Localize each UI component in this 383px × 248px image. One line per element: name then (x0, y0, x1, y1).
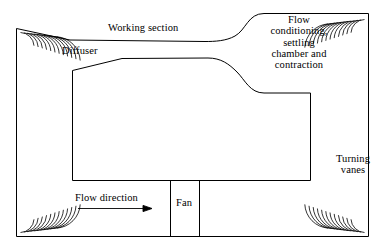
label-working-section: Working section (108, 22, 178, 33)
wind-tunnel-diagram: Working section Diffuser Flow conditioni… (0, 0, 383, 248)
label-turning-vanes: Turning vanes (327, 153, 379, 176)
label-diffuser: Diffuser (62, 45, 98, 56)
flow-direction-arrow (78, 205, 152, 211)
label-fan: Fan (176, 197, 192, 208)
fan-duct-segment (171, 181, 200, 237)
turning-vanes-bottom-right (305, 204, 365, 232)
label-flow-conditioning: Flow conditioning, settling chamber and … (262, 14, 336, 71)
inner-tunnel-wall (73, 58, 311, 181)
turning-vanes-bottom-left (21, 204, 81, 232)
label-flow-direction: Flow direction (75, 192, 138, 203)
flow-arrow-head (143, 205, 152, 211)
